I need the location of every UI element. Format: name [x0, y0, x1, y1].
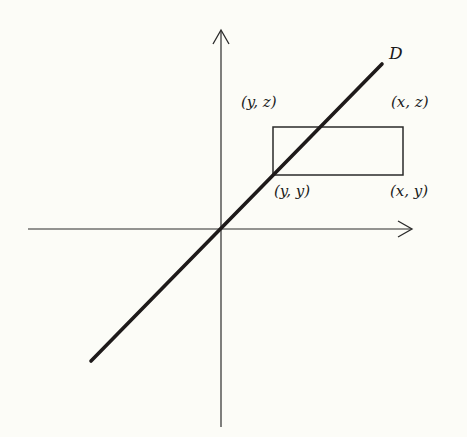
label-top-left: (y, z) — [241, 93, 277, 111]
label-bottom-right: (x, y) — [390, 182, 428, 200]
rectangle — [273, 127, 403, 175]
line-d-label: D — [388, 43, 403, 63]
line-d — [91, 64, 382, 361]
label-bottom-left: (y, y) — [274, 182, 310, 200]
diagram-svg: D (y, z) (x, z) (y, y) (x, y) — [0, 0, 467, 437]
diagram-canvas: D (y, z) (x, z) (y, y) (x, y) — [0, 0, 467, 437]
label-top-right: (x, z) — [391, 93, 429, 111]
